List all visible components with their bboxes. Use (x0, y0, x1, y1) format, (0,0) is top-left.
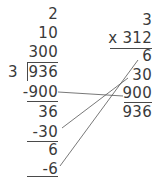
connector-6 (60, 60, 138, 166)
connector-lines (0, 0, 162, 178)
connector-30 (62, 78, 128, 128)
